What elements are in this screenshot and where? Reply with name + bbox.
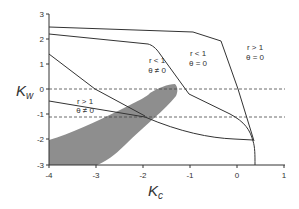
- phase-diagram: -4 -3 -2 -1 0 1 3 2 1 0 -1 -2 -3 Kw Kc r…: [0, 0, 299, 209]
- x-tick-label: -3: [92, 171, 100, 180]
- annotation-line: θ ≠ 0: [76, 106, 94, 115]
- annotations: r < 1 θ ≠ 0 r < 1 θ = 0 r > 1 θ = 0 r > …: [76, 43, 264, 115]
- x-tick-labels: -4 -3 -2 -1 0 1: [45, 171, 286, 180]
- y-axis-label: Kw: [16, 82, 34, 101]
- annotation-line: θ = 0: [189, 59, 208, 68]
- x-tick-label: -4: [45, 171, 53, 180]
- x-tick-label: 0: [235, 171, 240, 180]
- annotation-line: θ ≠ 0: [148, 66, 166, 75]
- annotation-line: θ = 0: [246, 53, 265, 62]
- y-tick-label: -1: [37, 110, 45, 119]
- annotation-r-lt1-theta-ne0: r < 1: [149, 56, 166, 65]
- y-tick-label: -2: [37, 135, 45, 144]
- boundary-vertical: [253, 141, 255, 165]
- x-tick-label: 1: [282, 171, 287, 180]
- annotation-r-gt1-theta-ne0: r > 1: [77, 97, 94, 106]
- boundary-middle: [49, 34, 253, 141]
- y-tick-label: 0: [40, 85, 45, 94]
- y-tick-label: 3: [40, 10, 45, 19]
- annotation-r-lt1-theta-eq0: r < 1: [190, 49, 207, 58]
- x-tick-label: -2: [139, 171, 147, 180]
- x-tick-label: -1: [186, 171, 194, 180]
- shaded-region: [49, 84, 177, 165]
- y-tick-label: 1: [40, 60, 45, 69]
- x-axis-label: Kc: [148, 182, 163, 201]
- y-tick-label: -3: [37, 161, 45, 170]
- y-tick-labels: 3 2 1 0 -1 -2 -3: [37, 10, 45, 170]
- annotation-r-gt1-theta-eq0: r > 1: [247, 43, 264, 52]
- y-tick-label: 2: [40, 35, 45, 44]
- boundary-upper: [49, 27, 254, 141]
